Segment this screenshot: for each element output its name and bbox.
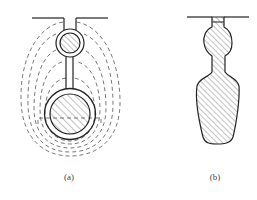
diagram-canvas <box>0 0 257 200</box>
panel-b <box>187 17 249 144</box>
panel-a <box>21 18 120 156</box>
panel-label-b: (b) <box>195 172 235 182</box>
panel-label-a: (a) <box>49 172 89 182</box>
slot-neck <box>66 57 73 89</box>
slot-outline-a <box>32 18 108 30</box>
bar-profile <box>197 17 240 144</box>
upper-conductor <box>56 29 84 57</box>
lower-conductor <box>45 89 96 140</box>
